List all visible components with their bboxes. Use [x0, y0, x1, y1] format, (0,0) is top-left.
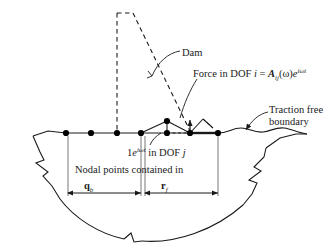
- foundation-outline: [33, 128, 307, 242]
- nodal-points-label: Nodal points contained in: [75, 164, 183, 176]
- unit-excitation-leader-line: [150, 133, 161, 145]
- node-point: [88, 130, 94, 136]
- node-point-apex: [164, 118, 170, 124]
- traction-free-boundary-label: Traction free boundary: [269, 104, 323, 128]
- force-leader-line: [180, 79, 197, 118]
- force-exponent: iωt: [298, 67, 307, 74]
- node-point: [187, 130, 193, 136]
- rf-vector-label: rf: [161, 180, 168, 192]
- dam-leader-line: [152, 51, 180, 76]
- node-point: [138, 130, 144, 136]
- dam-leader-tick: [147, 71, 152, 78]
- unit-dof-index: j: [183, 147, 186, 158]
- unit-excitation-label: 1eiωt in DOF j: [127, 147, 186, 159]
- force-dof-i-label: Force in DOF i = Aij(ω)eiωt: [193, 68, 306, 80]
- element-mesh: [141, 119, 213, 133]
- node-point: [164, 130, 170, 136]
- qb-vector-label: qb: [84, 180, 93, 192]
- dam-foundation-diagram: Dam Force in DOF i = Aij(ω)eiωt Traction…: [0, 0, 334, 248]
- qb-subscript: b: [90, 186, 93, 193]
- node-point: [114, 130, 120, 136]
- rf-subscript: f: [166, 186, 168, 193]
- node-point: [215, 130, 221, 136]
- unit-exponent: iωt: [137, 146, 146, 153]
- dam-label: Dam: [182, 47, 202, 59]
- traction-leader-line: [246, 112, 268, 130]
- node-point: [63, 130, 69, 136]
